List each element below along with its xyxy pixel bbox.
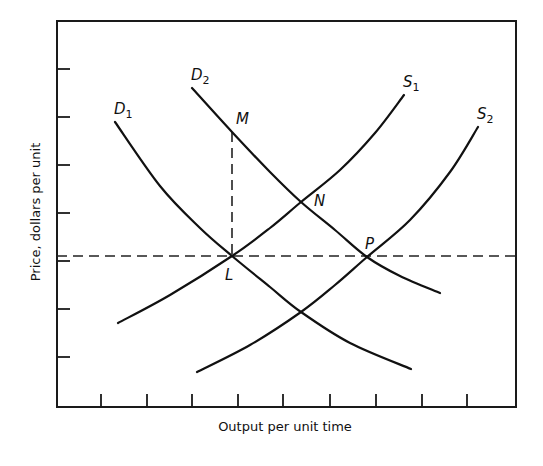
curve-labels: D1D2S1S2 [114,66,494,126]
label-d2: D2 [191,66,210,87]
point-labels: LMNP [225,110,375,284]
x-axis-ticks [101,394,467,407]
y-axis-ticks [57,69,70,357]
point-label-p: P [365,235,375,253]
curves [115,88,478,372]
label-s1: S1 [403,73,420,94]
reference-lines [57,132,516,256]
curve-s1 [118,95,404,323]
label-s2: S2 [477,105,494,126]
label-d1: D1 [114,100,133,121]
point-label-n: N [314,192,325,210]
point-label-m: M [236,110,249,128]
point-label-l: L [225,266,233,284]
y-axis-label: Price, dollars per unit [28,143,43,282]
supply-demand-chart: D1D2S1S2 LMNP Price, dollars per unit Ou… [0,0,543,466]
x-axis-label: Output per unit time [218,419,352,434]
